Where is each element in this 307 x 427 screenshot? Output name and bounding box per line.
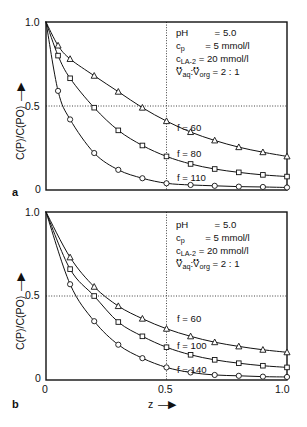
cp-value: 5 mmol/l bbox=[213, 40, 249, 51]
data-marker-square bbox=[188, 162, 193, 167]
cp-subscript: p bbox=[181, 44, 185, 53]
vratio-eq-b: = bbox=[213, 258, 219, 269]
panel-b-ytick-mid: 0.5 bbox=[25, 289, 40, 301]
marker-square-icon bbox=[140, 334, 145, 339]
marker-circle-icon bbox=[212, 372, 217, 377]
vorg-subscript-b: org bbox=[199, 262, 209, 271]
ph-eq: = bbox=[215, 27, 221, 38]
figure-root: 1.0 0.5 0 a C(P)/C(PO) —▶ pH = 5.0 cp = … bbox=[0, 0, 307, 427]
data-marker-square bbox=[261, 363, 266, 368]
data-marker-square bbox=[68, 76, 73, 81]
data-marker-circle bbox=[140, 356, 145, 361]
data-marker-square bbox=[164, 154, 169, 159]
data-marker-circle bbox=[236, 373, 241, 378]
vdot-aq-icon-b: ••V bbox=[176, 258, 182, 269]
data-marker-square bbox=[56, 53, 61, 58]
marker-square-icon bbox=[68, 267, 73, 272]
marker-circle-icon bbox=[260, 374, 265, 379]
panel-a-annotation-line2: cp = 5 mmol/l bbox=[176, 40, 250, 53]
marker-triangle-icon bbox=[115, 89, 121, 95]
marker-square-icon bbox=[164, 154, 169, 159]
panel-b-ytick-bottom: 0 bbox=[35, 372, 41, 384]
data-marker-circle bbox=[260, 374, 265, 379]
panel-a-ylabel-text: C(P)/C(PO) bbox=[14, 106, 26, 160]
marker-triangle-icon bbox=[55, 42, 61, 48]
marker-circle-icon bbox=[164, 365, 169, 370]
data-marker-square bbox=[237, 170, 242, 175]
panel-b-xlabel-arrow: —▶ bbox=[156, 398, 174, 410]
data-marker-triangle bbox=[139, 104, 145, 110]
data-marker-circle bbox=[92, 319, 97, 324]
data-marker-square bbox=[212, 167, 217, 172]
marker-circle-icon bbox=[284, 374, 289, 379]
data-marker-circle bbox=[68, 282, 73, 287]
marker-triangle-icon bbox=[91, 73, 97, 79]
panel-b-xtick-left: 0 bbox=[42, 383, 48, 395]
marker-square-icon bbox=[140, 143, 145, 148]
marker-square-icon bbox=[261, 363, 266, 368]
vratio-eq: = bbox=[213, 66, 219, 77]
data-marker-square bbox=[261, 173, 266, 178]
vdot-org-icon-b: ••V bbox=[193, 258, 199, 269]
data-marker-circle bbox=[188, 182, 193, 187]
panel-b-ylabel-text: C(P)/C(PO) bbox=[14, 296, 26, 350]
data-marker-circle bbox=[140, 176, 145, 181]
data-marker-square bbox=[285, 174, 290, 179]
marker-square-icon bbox=[116, 128, 121, 133]
panel-b-xtick-mid: 0.5 bbox=[158, 383, 173, 395]
panel-a-curve-0 bbox=[46, 22, 287, 156]
marker-circle-icon bbox=[284, 185, 289, 190]
cla2-eq: = bbox=[199, 53, 205, 64]
marker-triangle-icon bbox=[115, 303, 121, 309]
marker-circle-icon bbox=[116, 342, 121, 347]
data-marker-square bbox=[92, 105, 97, 110]
marker-circle-icon bbox=[236, 184, 241, 189]
data-marker-circle bbox=[212, 372, 217, 377]
marker-circle-icon bbox=[188, 182, 193, 187]
data-marker-triangle bbox=[55, 42, 61, 48]
marker-circle-icon bbox=[116, 167, 121, 172]
data-marker-square bbox=[116, 128, 121, 133]
ph-label: pH bbox=[176, 27, 188, 38]
data-marker-square bbox=[68, 267, 73, 272]
data-marker-circle bbox=[55, 88, 60, 93]
panel-b-annotation-line4: ••Vaq:••Vorg = 2 : 1 bbox=[176, 258, 240, 271]
cp-value-b: 5 mmol/l bbox=[213, 232, 249, 243]
marker-circle-icon bbox=[164, 181, 169, 186]
marker-square-icon bbox=[92, 294, 97, 299]
marker-square-icon bbox=[164, 345, 169, 350]
cp-eq-b: = bbox=[205, 232, 211, 243]
data-marker-circle bbox=[284, 374, 289, 379]
data-marker-square bbox=[188, 353, 193, 358]
data-marker-triangle bbox=[91, 73, 97, 79]
marker-square-icon bbox=[68, 76, 73, 81]
marker-square-icon bbox=[261, 173, 266, 178]
cp-subscript-b: p bbox=[181, 236, 185, 245]
data-marker-circle bbox=[260, 184, 265, 189]
marker-square-icon bbox=[212, 358, 217, 363]
marker-square-icon bbox=[188, 162, 193, 167]
marker-circle-icon bbox=[55, 88, 60, 93]
marker-circle-icon bbox=[260, 184, 265, 189]
data-marker-circle bbox=[116, 342, 121, 347]
panel-a-ylabel-arrow: —▶ bbox=[14, 84, 26, 102]
cla2-value: 20 mmol/l bbox=[207, 53, 249, 64]
panel-b-annotation-line1: pH = 5.0 bbox=[176, 219, 236, 230]
cp-eq: = bbox=[205, 40, 211, 51]
data-marker-square bbox=[140, 334, 145, 339]
marker-square-icon bbox=[92, 105, 97, 110]
panel-a-curve-label-0: f = 60 bbox=[177, 122, 201, 133]
data-marker-triangle bbox=[115, 303, 121, 309]
vdot-org-icon: ••V bbox=[193, 66, 199, 77]
marker-square-icon bbox=[285, 365, 290, 370]
marker-circle-icon bbox=[92, 319, 97, 324]
data-marker-circle bbox=[236, 184, 241, 189]
marker-triangle-icon bbox=[139, 104, 145, 110]
data-marker-square bbox=[212, 358, 217, 363]
ph-eq-b: = bbox=[215, 219, 221, 230]
panel-b-curve-label-0: f = 60 bbox=[177, 313, 201, 324]
data-marker-triangle bbox=[67, 254, 73, 260]
data-marker-square bbox=[164, 345, 169, 350]
marker-square-icon bbox=[237, 361, 242, 366]
panel-letter-b: b bbox=[12, 398, 19, 410]
